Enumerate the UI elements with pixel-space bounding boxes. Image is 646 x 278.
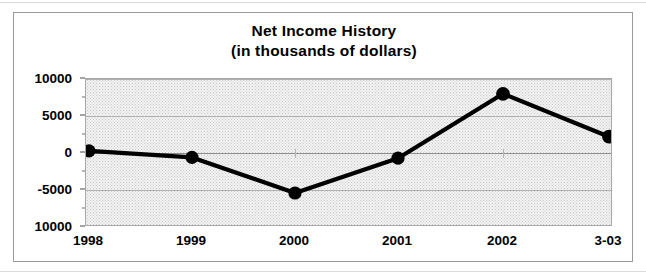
y-axis-tick-label: 5000 (42, 108, 72, 123)
scan-edge-line-top (0, 2, 646, 3)
x-axis-tick-label: 2002 (487, 233, 517, 248)
chart-title-line-1: Net Income History (252, 22, 397, 39)
x-axis-tick-label: 2001 (382, 233, 412, 248)
chart-container: Net Income History (in thousands of doll… (13, 12, 633, 262)
x-axis: 1998 1999 2000 2001 2002 3-03 (85, 233, 612, 259)
y-axis-tick-label: 10000 (34, 71, 72, 86)
x-axis-tick-label: 3-03 (594, 233, 621, 248)
chart-title: Net Income History (in thousands of doll… (14, 21, 634, 61)
data-point-1999 (185, 151, 198, 164)
x-axis-tick-label: 1999 (176, 233, 206, 248)
data-point-2000 (288, 186, 301, 199)
x-axis-tick-label: 1998 (73, 233, 103, 248)
plot-area (85, 78, 612, 226)
y-axis-tick-label: -5000 (37, 182, 72, 197)
chart-title-line-2: (in thousands of dollars) (14, 41, 634, 61)
y-axis-tick-label: 10000 (34, 219, 72, 234)
y-axis-tick-label: 0 (64, 145, 72, 160)
data-point-2001 (391, 152, 404, 165)
y-axis: 10000 5000 0 -5000 10000 (14, 78, 80, 226)
net-income-line (89, 94, 609, 193)
data-point-2002 (496, 87, 510, 101)
data-series-line-chart (86, 79, 612, 226)
x-axis-tick-label: 2000 (279, 233, 309, 248)
data-point-3-03 (602, 130, 612, 144)
scan-edge-line-bottom (0, 271, 646, 272)
data-point-1998 (86, 144, 96, 157)
